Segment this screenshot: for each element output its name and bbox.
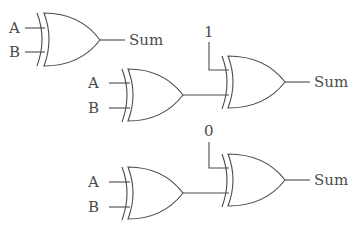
xor-gate-icon	[122, 69, 183, 122]
input-b-label: B	[88, 99, 99, 117]
xor-gate-icon	[222, 154, 285, 207]
xor-gate-icon	[222, 56, 285, 109]
input-a-label: A	[87, 173, 99, 191]
input-b-label: B	[9, 43, 20, 61]
xor-circuits-diagram: A B Sum A B 1 Sum A B	[0, 0, 355, 234]
constant-one-wire	[209, 42, 229, 70]
circuit-3: A B 0 Sum	[87, 122, 348, 220]
circuit-2: A B 1 Sum	[87, 23, 348, 122]
circuit-1: A B Sum	[8, 13, 163, 66]
output-sum-label: Sum	[129, 31, 163, 49]
input-a-label: A	[87, 74, 99, 92]
xor-gate-icon	[37, 13, 100, 66]
xor-gate-icon	[122, 167, 183, 220]
input-b-label: B	[88, 198, 99, 216]
constant-one-label: 1	[204, 23, 214, 41]
constant-zero-label: 0	[204, 122, 214, 140]
output-sum-label: Sum	[314, 73, 348, 91]
input-a-label: A	[8, 19, 20, 37]
output-sum-label: Sum	[314, 171, 348, 189]
constant-zero-wire	[209, 142, 229, 168]
